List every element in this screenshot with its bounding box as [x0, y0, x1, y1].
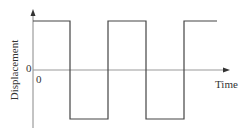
square-wave-diagram — [0, 0, 247, 133]
y-origin-label: 0 — [26, 62, 32, 74]
x-axis-arrow-icon — [223, 68, 230, 73]
y-axis-label: Displacement — [8, 35, 20, 105]
x-axis-label: Time — [215, 78, 238, 90]
x-origin-label: 0 — [36, 73, 42, 85]
y-axis-arrow-icon — [31, 9, 36, 16]
